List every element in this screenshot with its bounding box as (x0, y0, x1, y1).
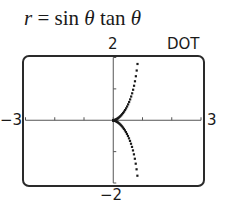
graph-screen (0, 0, 234, 207)
